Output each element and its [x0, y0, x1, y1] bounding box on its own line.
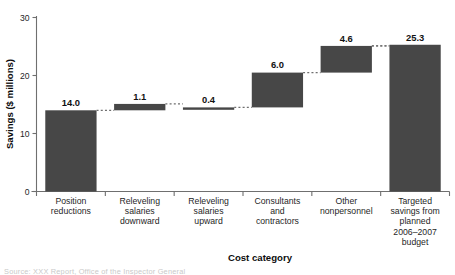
- bar-value-label: 25.3: [406, 32, 424, 43]
- source-note: Source: XXX Report, Office of the Inspec…: [4, 267, 334, 275]
- svg-text:savings from: savings from: [390, 206, 439, 216]
- x-category-label: Positionreductions: [51, 196, 92, 216]
- svg-text:salaries: salaries: [194, 206, 225, 216]
- bar: [321, 46, 372, 73]
- svg-text:Consultants: Consultants: [254, 196, 301, 206]
- bar-value-label: 1.1: [133, 91, 146, 102]
- bar: [183, 107, 234, 109]
- bar-value-label: 0.4: [202, 94, 216, 105]
- x-axis-title: Cost category: [228, 252, 293, 263]
- y-axis-title: Savings ($ millions): [4, 59, 15, 149]
- svg-text:planned: planned: [400, 216, 431, 226]
- svg-text:and: and: [270, 206, 285, 216]
- svg-text:contractors: contractors: [256, 216, 300, 226]
- y-tick-label: 20: [20, 71, 30, 81]
- bar-value-label: 4.6: [340, 33, 353, 44]
- svg-text:upward: upward: [194, 216, 223, 226]
- x-category-label: Relevelingsalariesupward: [188, 196, 229, 227]
- svg-text:budget: budget: [402, 237, 429, 247]
- x-category-label: Consultantsandcontractors: [254, 196, 301, 227]
- bar: [114, 104, 165, 110]
- svg-text:2006–2007: 2006–2007: [393, 227, 437, 237]
- y-tick-label: 10: [20, 129, 30, 139]
- bar: [45, 110, 96, 191]
- x-category-label: Relevelingsalariesdownward: [119, 196, 160, 227]
- svg-text:reductions: reductions: [51, 206, 92, 216]
- svg-text:Releveling: Releveling: [188, 196, 229, 206]
- bar-value-label: 14.0: [62, 97, 80, 108]
- bar-value-label: 6.0: [271, 59, 284, 70]
- y-tick-label: 0: [25, 187, 30, 197]
- svg-text:Position: Position: [55, 196, 86, 206]
- svg-text:downward: downward: [120, 216, 160, 226]
- x-category-label: Othernonpersonnel: [320, 196, 373, 216]
- svg-text:Releveling: Releveling: [119, 196, 160, 206]
- svg-text:salaries: salaries: [125, 206, 156, 216]
- x-category-label: Targetedsavings fromplanned2006–2007budg…: [390, 196, 439, 248]
- bar: [252, 73, 303, 108]
- svg-text:Targeted: Targeted: [398, 196, 432, 206]
- bar: [389, 45, 440, 192]
- svg-text:Other: Other: [335, 196, 357, 206]
- y-tick-label: 30: [20, 13, 30, 23]
- svg-text:nonpersonnel: nonpersonnel: [320, 206, 373, 216]
